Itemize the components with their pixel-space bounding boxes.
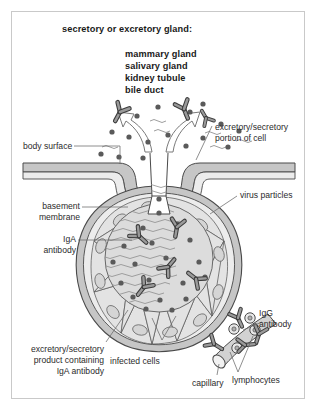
label-body-surface: body surface [23,141,72,151]
label-iga-antibody-line2: antibody [0,245,76,255]
figure-title: secretory or excretory gland: [62,24,192,35]
gland-example-mammary: mammary gland [125,49,197,60]
label-igg-antibody-line2: antibody [259,319,292,329]
label-lymphocytes: lymphocytes [232,375,280,385]
label-iga-antibody-line1: IgA [0,234,76,244]
gland-example-bile-duct: bile duct [125,85,164,96]
gland-example-kidney-tubule: kidney tubule [125,73,186,84]
label-excretory-portion-line1: excretory/secretory [215,122,288,132]
label-capillary: capillary [192,378,224,388]
label-basement-membrane-line1: basement [0,201,80,211]
label-product-line3: IgA antibody [0,366,104,376]
label-virus-particles: virus particles [240,190,293,200]
label-basement-membrane-line2: membrane [0,212,80,222]
label-excretory-portion-line2: portion of cell [215,133,266,143]
label-igg-antibody-line1: IgG [259,308,273,318]
label-product-line1: excretory/secretory [0,344,104,354]
figure-panel: secretory or excretory gland: mammary gl… [0,0,318,411]
label-infected-cells: infected cells [110,356,160,366]
gland-example-salivary: salivary gland [125,61,188,72]
label-product-line2: product containing [0,355,104,365]
